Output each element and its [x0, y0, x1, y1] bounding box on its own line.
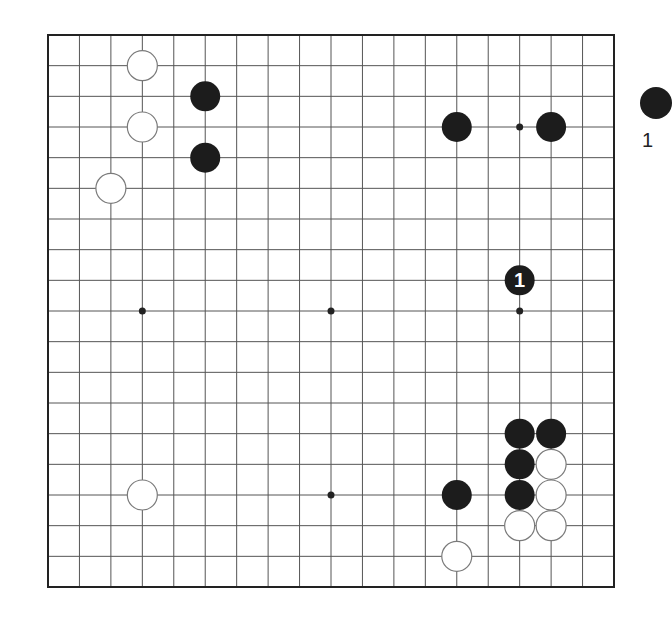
black-stone[interactable]: 1 [505, 265, 535, 295]
star-point [516, 308, 523, 315]
black-stone[interactable] [536, 112, 566, 142]
black-stone[interactable] [190, 143, 220, 173]
star-point [328, 308, 335, 315]
caption-black-stone-icon [640, 87, 672, 119]
black-stone[interactable] [505, 449, 535, 479]
white-stone[interactable] [96, 173, 126, 203]
white-stone[interactable] [536, 449, 566, 479]
white-stone[interactable] [536, 511, 566, 541]
black-stone[interactable] [442, 480, 472, 510]
white-stone[interactable] [127, 112, 157, 142]
black-stone[interactable] [442, 112, 472, 142]
star-point [516, 124, 523, 131]
white-stone[interactable] [127, 480, 157, 510]
white-stone[interactable] [505, 511, 535, 541]
white-stone[interactable] [127, 51, 157, 81]
black-stone[interactable] [505, 480, 535, 510]
black-stone[interactable] [536, 419, 566, 449]
black-stone[interactable] [190, 81, 220, 111]
white-stone[interactable] [536, 480, 566, 510]
move-number-label: 1 [514, 269, 525, 291]
star-point [139, 308, 146, 315]
black-stone[interactable] [505, 419, 535, 449]
white-stone[interactable] [442, 541, 472, 571]
star-point [328, 492, 335, 499]
caption-move-number: 1 [642, 130, 653, 150]
